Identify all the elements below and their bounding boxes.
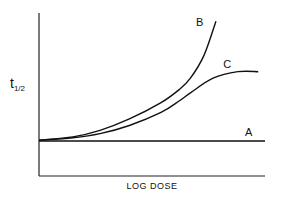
curve-label-b: B <box>196 16 203 28</box>
curve-b <box>39 21 216 140</box>
curve-labels: ABC <box>196 16 253 138</box>
curves <box>39 21 265 141</box>
x-axis-label: LOG DOSE <box>126 181 177 191</box>
y-axis-label-subscript: 1/2 <box>14 84 26 93</box>
chart: ABC LOG DOSE t1/2 <box>0 0 281 200</box>
curve-label-a: A <box>245 126 253 138</box>
curve-label-c: C <box>223 58 231 70</box>
curve-c <box>39 71 258 140</box>
y-axis-label: t1/2 <box>10 75 26 93</box>
